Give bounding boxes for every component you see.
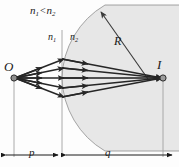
radius-label: R xyxy=(114,35,121,47)
object-point-label: O xyxy=(4,60,13,73)
image-distance-label: q xyxy=(105,147,111,158)
object-distance-label: p xyxy=(29,147,35,158)
medium-n1-label: n1 xyxy=(48,32,56,42)
image-point-marker xyxy=(160,75,166,81)
figure-canvas xyxy=(0,0,179,167)
medium-n2-label: n2 xyxy=(70,32,78,42)
image-point-label: I xyxy=(157,58,161,71)
object-point-marker xyxy=(11,75,17,81)
refraction-spherical-surface-figure: n1<n2 n1 n2 R O I p q xyxy=(0,0,179,167)
incident-ray-direction-arrows xyxy=(15,68,42,89)
index-comparison-label: n1<n2 xyxy=(30,5,56,16)
